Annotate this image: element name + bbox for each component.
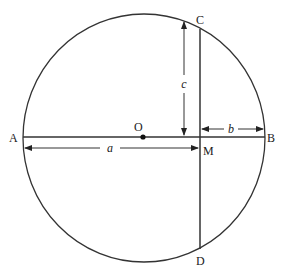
point-label-d: D	[196, 254, 205, 268]
point-label-c: C	[196, 13, 204, 27]
point-label-b: B	[267, 131, 275, 145]
dimension-b-label: b	[228, 122, 234, 136]
point-label-o: O	[134, 120, 143, 134]
circle-diagram: a b c A B C D M O	[0, 0, 283, 269]
center-point-o	[140, 134, 145, 139]
dimension-c-label: c	[181, 77, 187, 91]
point-label-m: M	[203, 144, 214, 158]
dimension-a-label: a	[107, 141, 113, 155]
point-label-a: A	[9, 131, 18, 145]
